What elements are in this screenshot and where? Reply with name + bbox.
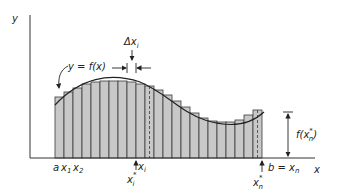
x-axis-label: x (313, 164, 320, 175)
riemann-bar (109, 81, 118, 158)
riemann-bar (217, 122, 226, 158)
label-a: a (53, 162, 59, 173)
riemann-bar (82, 84, 91, 158)
label-xn-star: x*n (252, 174, 263, 191)
riemann-bar (181, 107, 190, 158)
delta-x-label: Δxi (123, 36, 139, 50)
label-b-equals-xn: b = xn (268, 162, 299, 175)
riemann-bar (91, 82, 100, 158)
height-label: f(x*n) (296, 127, 317, 143)
riemann-bar (118, 81, 127, 158)
label-xi-star: x*i (126, 171, 137, 188)
riemann-bar (55, 97, 64, 158)
riemann-bar (190, 113, 199, 158)
curve-label: y = f(x) (67, 61, 106, 72)
riemann-bar (73, 88, 82, 158)
riemann-bar (154, 90, 163, 158)
riemann-sum-diagram: y x y = f(x) Δxi a x1 x2 xi x*i b = xn x… (0, 0, 338, 195)
riemann-bar (226, 122, 235, 158)
riemann-bar (127, 82, 136, 158)
label-xi: xi (137, 161, 146, 174)
riemann-bar (208, 121, 217, 158)
riemann-bar (100, 81, 109, 158)
curve-label-arrow-icon (59, 66, 68, 88)
riemann-bar (163, 95, 172, 158)
riemann-bar (199, 118, 208, 158)
riemann-bar (136, 84, 145, 158)
label-x2: x2 (72, 162, 84, 175)
riemann-bar (235, 120, 244, 158)
label-x1: x1 (60, 162, 71, 175)
y-axis-label: y (11, 13, 19, 24)
riemann-bar (172, 101, 181, 158)
riemann-bar (64, 92, 73, 158)
